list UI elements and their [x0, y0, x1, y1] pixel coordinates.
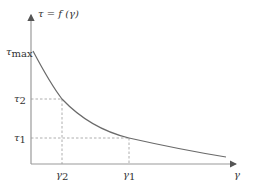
tick-gamma-1: γ1	[123, 169, 135, 182]
chart-svg: τ = f (γ) τmax τ2 τ1 γ2 γ1 γ	[0, 0, 253, 188]
tick-tau-max: τmax	[6, 46, 33, 59]
tick-gamma-2: γ2	[56, 169, 68, 182]
y-axis-title: τ = f (γ)	[38, 8, 79, 19]
tick-tau-2: τ2	[14, 93, 26, 106]
chart-container: τ = f (γ) τmax τ2 τ1 γ2 γ1 γ	[0, 0, 253, 188]
dashed-guides	[31, 99, 129, 164]
x-axis-title: γ	[234, 169, 240, 180]
tick-tau-1: τ1	[14, 132, 26, 145]
